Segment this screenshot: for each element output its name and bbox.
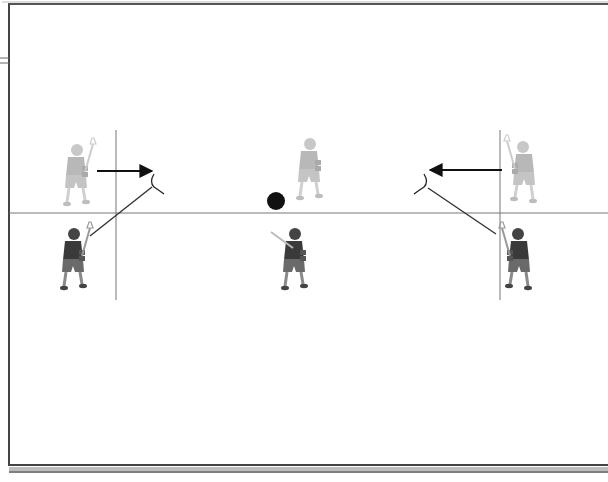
player-right-top-icon <box>504 135 537 203</box>
stick-head-icon <box>414 174 427 194</box>
right-pass-line <box>428 188 496 234</box>
player-left-top-icon <box>63 138 96 206</box>
ball-icon <box>267 192 285 210</box>
ground-ball <box>267 192 285 210</box>
player-right-bottom-icon <box>499 222 532 290</box>
player-center-top-icon <box>296 138 323 200</box>
left-pass-line <box>90 187 152 236</box>
player-center-bottom-icon <box>271 228 308 290</box>
stick-head-icon <box>152 174 165 194</box>
drill-diagram <box>0 0 608 482</box>
player-left-bottom-icon <box>60 222 93 290</box>
diagram-canvas <box>0 0 608 482</box>
stick-heads <box>152 174 427 194</box>
